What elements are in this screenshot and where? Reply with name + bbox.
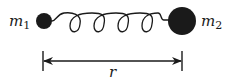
mass-1-ball <box>36 13 52 29</box>
mass-1-label: m1 <box>9 12 30 32</box>
mass-2-label: m2 <box>201 12 222 32</box>
spring-coil <box>52 13 169 32</box>
diagram-svg: m1 m2 r <box>0 0 230 80</box>
mass-2-ball <box>168 7 196 35</box>
mass-spring-diagram: m1 m2 r <box>0 0 230 80</box>
separation-label: r <box>109 63 117 80</box>
